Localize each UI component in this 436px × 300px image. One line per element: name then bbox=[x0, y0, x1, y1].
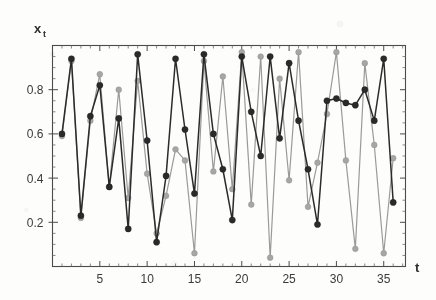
dark-series-marker bbox=[267, 53, 273, 59]
light-series-marker bbox=[258, 54, 264, 60]
x-axis-tick-label: 5 bbox=[96, 272, 103, 286]
x-axis-tick-label: 20 bbox=[235, 272, 249, 286]
dark-series-marker bbox=[390, 199, 396, 205]
y-axis-title-subscript: t bbox=[43, 29, 46, 39]
dark-series-marker bbox=[59, 131, 65, 137]
x-axis-tick-label: 15 bbox=[188, 272, 202, 286]
dark-series-marker bbox=[97, 82, 103, 88]
light-series-marker bbox=[97, 71, 103, 77]
dark-series-marker bbox=[191, 190, 197, 196]
y-axis-tick-label: 0.2 bbox=[27, 216, 44, 230]
y-axis-tick-label: 0.6 bbox=[27, 127, 44, 141]
x-axis-tick-label: 10 bbox=[140, 272, 154, 286]
light-series-marker bbox=[343, 158, 349, 164]
dark-series-marker bbox=[220, 166, 226, 172]
dark-series-marker bbox=[87, 113, 93, 119]
dark-series-marker bbox=[116, 115, 122, 121]
axis-ticks-group bbox=[49, 46, 406, 267]
light-series-marker bbox=[182, 158, 188, 164]
x-axis-title: t bbox=[415, 260, 420, 275]
light-series-marker bbox=[286, 177, 292, 183]
light-series-marker bbox=[352, 246, 358, 252]
light-series-marker bbox=[267, 255, 273, 261]
light-series-marker bbox=[381, 250, 387, 256]
light-series-marker bbox=[371, 142, 377, 148]
dark-series-marker bbox=[295, 118, 301, 124]
x-axis-tick-label: 25 bbox=[282, 272, 296, 286]
dark-series-marker bbox=[210, 131, 216, 137]
x-axis-tick-label: 30 bbox=[330, 272, 344, 286]
dark-series-marker bbox=[239, 53, 245, 59]
dark-series-marker bbox=[371, 118, 377, 124]
dark-series-marker bbox=[125, 226, 131, 232]
light-series-marker bbox=[144, 171, 150, 177]
dark-series-marker bbox=[314, 221, 320, 227]
dark-series-marker bbox=[154, 239, 160, 245]
time-series-plot: 51015202530350.20.40.60.8 xtt bbox=[0, 0, 436, 300]
dark-series-marker bbox=[343, 100, 349, 106]
light-series-marker bbox=[220, 74, 226, 80]
light-series-marker bbox=[248, 202, 254, 208]
dark-series-marker bbox=[381, 56, 387, 62]
light-series-marker bbox=[296, 49, 302, 55]
data-series-group bbox=[59, 49, 396, 260]
dark-series-marker bbox=[324, 98, 330, 104]
light-series-marker bbox=[173, 146, 179, 152]
dark-series-marker bbox=[201, 51, 207, 57]
light-series-marker bbox=[324, 111, 330, 117]
axis-titles-group: xtt bbox=[34, 21, 420, 275]
dark-series-marker bbox=[286, 60, 292, 66]
y-axis-tick-label: 0.4 bbox=[27, 172, 44, 186]
chart-root: 51015202530350.20.40.60.8 xtt bbox=[0, 0, 436, 300]
light-series-marker bbox=[315, 160, 321, 166]
dark-series-marker bbox=[106, 184, 112, 190]
y-axis-title: x bbox=[34, 21, 42, 36]
light-series-marker bbox=[305, 204, 311, 210]
dark-series-marker bbox=[78, 213, 84, 219]
y-axis-tick-label: 0.8 bbox=[27, 83, 44, 97]
dark-series-marker bbox=[305, 166, 311, 172]
dark-series-marker bbox=[362, 87, 368, 93]
dark-series-marker bbox=[229, 217, 235, 223]
light-series-marker bbox=[334, 49, 340, 55]
light-series-marker bbox=[192, 250, 198, 256]
dark-series-line bbox=[62, 54, 393, 242]
light-series-marker bbox=[362, 60, 368, 66]
dark-series-marker bbox=[144, 137, 150, 143]
dark-series-marker bbox=[333, 95, 339, 101]
dark-series-marker bbox=[352, 102, 358, 108]
dark-series-marker bbox=[248, 109, 254, 115]
dark-series-marker bbox=[68, 56, 74, 62]
light-series-marker bbox=[277, 76, 283, 82]
light-series-marker bbox=[116, 87, 122, 93]
dark-series-marker bbox=[163, 173, 169, 179]
dark-series-marker bbox=[135, 51, 141, 57]
dark-series-marker bbox=[277, 135, 283, 141]
dark-series-marker bbox=[182, 126, 188, 132]
dark-series-marker bbox=[258, 153, 264, 159]
dark-series-marker bbox=[172, 56, 178, 62]
x-axis-tick-label: 35 bbox=[377, 272, 391, 286]
light-series-marker bbox=[210, 169, 216, 175]
light-series-line bbox=[62, 52, 393, 258]
